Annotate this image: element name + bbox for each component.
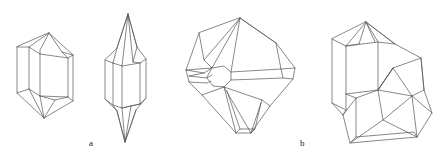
crystal-edge [140,98,146,104]
crystal-1 [17,33,73,118]
crystal-edge [17,33,73,118]
crystal-edge [49,33,68,58]
crystal-edge [29,54,40,96]
crystal-edge [186,33,212,70]
crystal-edge [276,43,281,69]
crystal-edge [189,81,211,83]
crystal-edge [332,22,432,143]
crystal-edge [412,96,417,137]
crystal-edge [122,63,140,108]
crystal-edge [40,58,68,97]
crystal-edge [281,69,283,78]
crystal-edge [189,73,204,76]
crystal-edge [17,47,29,93]
crystal-edge [29,89,44,118]
crystal-edge [346,94,356,98]
crystal-edge [122,106,131,108]
crystal-edge [393,68,424,96]
crystal-edge [332,39,346,110]
crystal-4 [332,22,432,143]
crystal-edge [240,18,276,43]
crystal-edge [68,97,73,101]
figure-label-a: a [89,139,93,148]
crystal-edge [128,14,137,47]
crystal-figure: a b [0,0,436,162]
crystal-edge [421,58,424,90]
crystal-edge [255,103,261,129]
crystal-2 [105,14,146,142]
crystal-edge [29,33,49,47]
crystal-edge [29,33,49,54]
crystal-edge [113,63,122,108]
crystal-edge [378,68,412,96]
crystal-edge [366,22,378,42]
crystal-edge [122,59,146,66]
crystal-3 [186,18,295,133]
figure-label-b: b [300,139,305,148]
crystal-edge [40,54,73,58]
crystal-edge [125,110,136,142]
crystal-edge [350,120,383,143]
crystal-edge [378,58,421,90]
crystal-edge [231,68,295,72]
crystal-edge [231,78,293,80]
crystal-edge [105,60,113,105]
crystal-edge [44,97,68,118]
crystal-edge [383,96,412,120]
crystal-edge [366,22,395,44]
crystal-edge [346,44,359,46]
crystal-edge [350,132,417,143]
crystal-edge [346,22,366,46]
crystal-drawings-svg [0,0,436,162]
crystal-edge [133,47,137,62]
crystal-edge [202,87,224,95]
crystal-edge [346,42,395,46]
crystal-edge [122,14,128,66]
